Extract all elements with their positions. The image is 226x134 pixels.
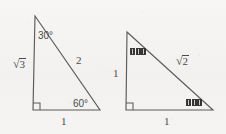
label-base-1-left: 1 xyxy=(61,116,67,127)
label-leg-sqrt3: √ 3 xyxy=(13,58,26,70)
label-angle-60: 60° xyxy=(73,99,88,109)
label-hypotenuse-sqrt2: √ 2 xyxy=(176,55,189,67)
label-angle-30: 30° xyxy=(38,31,53,41)
radicand-sqrt2: 2 xyxy=(182,55,190,67)
missing-glyph-box xyxy=(130,48,135,55)
right-angle-marker-left xyxy=(33,103,40,110)
missing-glyph-box xyxy=(197,99,202,106)
missing-glyph-box xyxy=(141,48,146,55)
label-angle-45-apex-missing-glyphs xyxy=(130,48,146,55)
label-leg-1-right: 1 xyxy=(113,68,119,79)
label-angle-45-base-missing-glyphs xyxy=(186,99,202,106)
radicand-sqrt3: 3 xyxy=(19,58,27,70)
special-right-triangles-figure: 30° √ 3 2 60° 1 1 √ 2 1 xyxy=(0,0,226,134)
label-hypotenuse-2: 2 xyxy=(76,55,82,66)
missing-glyph-box xyxy=(136,48,141,55)
label-base-1-right: 1 xyxy=(164,116,170,127)
missing-glyph-box xyxy=(186,99,191,106)
missing-glyph-box xyxy=(192,99,197,106)
right-angle-marker-right xyxy=(126,103,133,110)
